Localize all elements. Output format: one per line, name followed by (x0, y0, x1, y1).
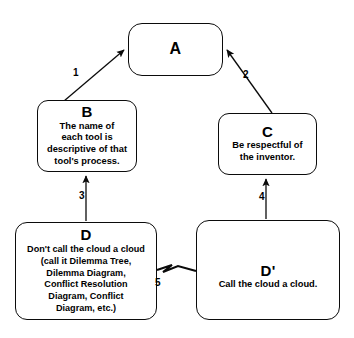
node-d-prime-letter: D' (261, 263, 276, 279)
node-a-letter: A (170, 41, 182, 58)
node-d-prime[interactable]: D' Call the cloud a cloud. (196, 220, 340, 320)
node-b-letter: B (81, 104, 92, 120)
edge-5-zigzag (157, 265, 196, 272)
edge-4-label: 4 (259, 192, 265, 202)
node-b[interactable]: B The name of each tool is descriptive o… (37, 100, 137, 172)
edge-3-label: 3 (79, 191, 85, 201)
edge-2-label: 2 (243, 70, 249, 80)
node-c-text: Be respectful of the inventor. (228, 140, 306, 164)
edge-2-line (227, 50, 272, 113)
node-c-letter: C (262, 124, 273, 140)
node-b-text: The name of each tool is descriptive of … (43, 121, 131, 169)
node-c[interactable]: C Be respectful of the inventor. (218, 113, 317, 175)
diagram-canvas: A B The name of each tool is descriptive… (0, 0, 354, 338)
node-d-text: Don't call the cloud a cloud (call it Di… (23, 244, 149, 315)
node-d-letter: D (80, 227, 91, 243)
node-d-prime-text: Call the cloud a cloud. (215, 279, 322, 291)
node-a[interactable]: A (128, 23, 223, 76)
edge-1-label: 1 (73, 68, 79, 78)
node-d[interactable]: D Don't call the cloud a cloud (call it … (15, 222, 157, 320)
edge-5-label: 5 (155, 278, 161, 288)
